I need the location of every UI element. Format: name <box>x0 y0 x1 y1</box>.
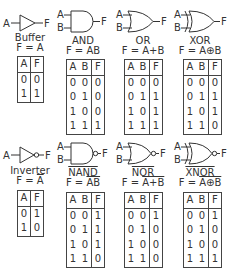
svg-text:A: A <box>116 9 123 20</box>
svg-text:A: A <box>174 141 181 152</box>
svg-text:A: A <box>57 141 64 152</box>
gate-expression: F = AB <box>58 178 108 188</box>
svg-text:B: B <box>116 154 123 165</box>
truth-table-nor: ABF 001 010 100 110 <box>124 192 163 268</box>
svg-text:A: A <box>116 141 123 152</box>
truth-table-buffer: AF 00 11 <box>17 56 44 103</box>
truth-table-or: ABF 000 011 101 111 <box>124 59 163 135</box>
truth-table-xnor: ABF 001 010 100 111 <box>183 192 222 268</box>
xnor-gate-icon: A B F <box>173 140 229 168</box>
svg-text:B: B <box>116 22 123 33</box>
buffer-gate-icon: A F <box>2 12 52 34</box>
svg-text:A: A <box>3 150 10 161</box>
xor-gate-icon: A B F <box>173 8 229 36</box>
gate-expression: F = A⊕B <box>175 46 225 56</box>
svg-text:F: F <box>160 148 166 159</box>
svg-text:F: F <box>45 150 51 161</box>
svg-text:F: F <box>221 148 227 159</box>
gate-expression: F = A+B <box>118 46 168 56</box>
svg-text:B: B <box>57 22 64 33</box>
or-gate-icon: A B F <box>115 8 169 36</box>
svg-text:B: B <box>174 22 181 33</box>
svg-text:F: F <box>161 16 167 27</box>
svg-text:A: A <box>174 9 181 20</box>
svg-text:F: F <box>101 16 107 27</box>
nor-gate-icon: A B F <box>115 140 169 168</box>
gate-expression: F = AB <box>58 46 108 56</box>
gate-expression: F = A+B <box>118 178 168 188</box>
svg-text:A: A <box>3 18 10 29</box>
svg-text:B: B <box>57 154 64 165</box>
truth-table-xor: ABF 000 011 101 110 <box>183 59 222 135</box>
svg-text:F: F <box>221 16 227 27</box>
nand-gate-icon: A B F <box>56 140 112 168</box>
svg-text:B: B <box>174 154 181 165</box>
truth-table-inverter: AF 01 10 <box>17 190 44 237</box>
gate-expression: F = A⊕B <box>175 178 225 188</box>
svg-text:F: F <box>102 148 108 159</box>
truth-table-and: ABF 000 010 100 111 <box>66 59 105 135</box>
svg-text:A: A <box>57 9 64 20</box>
and-gate-icon: A B F <box>56 8 110 36</box>
svg-text:F: F <box>44 18 50 29</box>
gate-expression: F = A <box>5 43 55 53</box>
gate-expression: F = A <box>5 176 55 186</box>
truth-table-nand: ABF 001 011 101 110 <box>66 192 105 268</box>
inverter-gate-icon: A F <box>2 144 54 166</box>
